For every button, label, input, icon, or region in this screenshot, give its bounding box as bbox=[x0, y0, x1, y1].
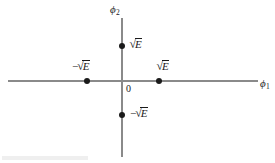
scan-artifact bbox=[2, 156, 88, 160]
signal-constellation-figure: ϕ2 ϕ1 0 √E −√E √E −√E bbox=[0, 0, 275, 163]
data-point-positive-phi2 bbox=[119, 43, 125, 49]
x-axis-label-subscript: 1 bbox=[266, 82, 270, 91]
data-label-negative-phi2: −√E bbox=[130, 107, 148, 120]
radical-expression: −√E bbox=[72, 60, 90, 73]
radical-expression: √E bbox=[130, 38, 142, 51]
data-label-positive-phi1: √E bbox=[157, 60, 169, 73]
data-label-positive-phi2: √E bbox=[130, 38, 142, 51]
radical-expression: −√E bbox=[130, 107, 148, 120]
data-point-negative-phi2 bbox=[119, 112, 125, 118]
y-axis-label-symbol: ϕ bbox=[110, 3, 116, 15]
data-point-negative-phi1 bbox=[84, 78, 90, 84]
data-label-negative-phi1: −√E bbox=[72, 60, 90, 73]
y-axis-line bbox=[121, 18, 123, 157]
x-axis-line bbox=[8, 80, 258, 82]
radicand-text: E bbox=[162, 60, 170, 73]
data-point-positive-phi1 bbox=[156, 78, 162, 84]
radicand-text: E bbox=[82, 60, 90, 73]
radicand-text: E bbox=[140, 107, 148, 120]
y-axis-label: ϕ2 bbox=[110, 4, 120, 16]
y-axis-label-subscript: 2 bbox=[116, 8, 120, 17]
radical-expression: √E bbox=[157, 60, 169, 73]
x-axis-label-symbol: ϕ bbox=[260, 77, 266, 89]
origin-label: 0 bbox=[126, 84, 131, 94]
x-axis-label: ϕ1 bbox=[260, 78, 270, 90]
radicand-text: E bbox=[135, 38, 143, 51]
